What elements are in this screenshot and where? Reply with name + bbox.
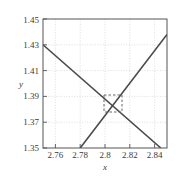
y-tick-label-4: 1.43 — [23, 40, 39, 50]
x-tick-label-3: 2.82 — [122, 150, 138, 160]
y-tick-label-0: 1.35 — [23, 143, 39, 153]
y-tick-label-2: 1.39 — [23, 91, 39, 101]
x-tick-label-2: 2.8 — [99, 150, 111, 160]
y-axis-title: y — [18, 79, 23, 89]
x-axis-title: x — [102, 162, 107, 172]
x-tick-label-0: 2.76 — [48, 150, 64, 160]
chart-page: 1.35 1.37 1.39 1.41 1.43 1.45 2.76 2.78 … — [0, 0, 181, 176]
x-tick-label-1: 2.78 — [72, 150, 88, 160]
x-tick-label-4: 2.84 — [147, 150, 163, 160]
y-tick-label-1: 1.37 — [23, 117, 39, 127]
line-chart: 1.35 1.37 1.39 1.41 1.43 1.45 2.76 2.78 … — [0, 0, 181, 176]
y-tick-label-5: 1.45 — [23, 15, 39, 25]
y-tick-label-3: 1.41 — [23, 66, 39, 76]
